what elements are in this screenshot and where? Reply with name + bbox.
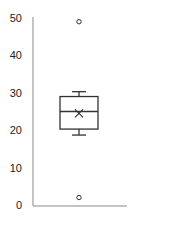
y-tick-label: 30 [0,87,22,99]
y-tick-label: 0 [0,199,22,211]
plot-area [0,0,186,226]
y-tick-label: 50 [0,12,22,24]
y-tick-label: 40 [0,49,22,61]
box-series [60,20,98,200]
outlier-point [77,20,81,24]
y-tick-label: 10 [0,162,22,174]
box-plot-chart: 01020304050 [0,0,186,226]
outlier-point [77,195,81,199]
y-tick-label: 20 [0,124,22,136]
